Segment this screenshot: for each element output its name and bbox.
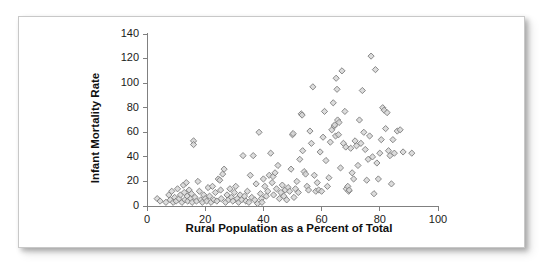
data-point-marker xyxy=(250,153,256,159)
data-point-marker xyxy=(383,126,389,132)
data-point-marker xyxy=(364,177,370,183)
figure-card: 020406080100120140020406080100 Rural Pop… xyxy=(18,16,525,248)
data-point-marker xyxy=(291,194,297,200)
page-background: 020406080100120140020406080100 Rural Pop… xyxy=(0,0,552,271)
y-tick-label: 40 xyxy=(127,150,139,162)
data-point-marker xyxy=(308,140,314,146)
data-point-marker xyxy=(409,150,415,156)
data-point-marker xyxy=(311,172,317,178)
data-point-marker xyxy=(317,149,323,155)
data-point-marker xyxy=(310,84,316,90)
y-tick-label: 20 xyxy=(127,174,139,186)
data-point-marker xyxy=(314,180,320,186)
x-tick-label: 0 xyxy=(144,213,150,225)
data-point-marker xyxy=(371,191,377,197)
data-point-marker xyxy=(377,150,383,156)
data-point-marker xyxy=(260,176,266,182)
data-point-marker xyxy=(326,175,332,181)
data-point-marker xyxy=(388,181,394,187)
data-point-marker xyxy=(356,117,362,123)
data-point-marker xyxy=(297,156,303,162)
data-point-marker xyxy=(269,180,275,186)
data-point-marker xyxy=(195,178,201,184)
y-tick-label: 140 xyxy=(121,27,139,39)
data-point-marker xyxy=(270,192,276,198)
y-tick-label: 0 xyxy=(133,199,139,211)
y-tick-label: 60 xyxy=(127,125,139,137)
data-point-marker xyxy=(330,100,336,106)
data-point-marker xyxy=(362,146,368,152)
scatter-chart: 020406080100120140020406080100 Rural Pop… xyxy=(19,17,526,249)
data-point-marker xyxy=(361,129,367,135)
y-tick-label: 100 xyxy=(121,76,139,88)
data-point-marker xyxy=(378,137,384,143)
data-point-marker xyxy=(374,160,380,166)
data-point-marker xyxy=(247,172,253,178)
data-markers-group xyxy=(154,53,415,207)
x-axis-title: Rural Population as a Percent of Total xyxy=(186,222,393,234)
data-point-marker xyxy=(355,162,361,168)
data-point-marker xyxy=(275,162,281,168)
data-point-marker xyxy=(351,176,357,182)
data-point-marker xyxy=(337,165,343,171)
data-point-marker xyxy=(300,148,306,154)
data-point-marker xyxy=(268,150,274,156)
axes-group xyxy=(147,33,438,206)
data-point-marker xyxy=(327,139,333,145)
data-point-marker xyxy=(359,87,365,93)
data-point-marker xyxy=(233,183,239,189)
data-point-marker xyxy=(323,157,329,163)
axis-spines xyxy=(147,33,438,206)
data-point-marker xyxy=(320,134,326,140)
data-point-marker xyxy=(390,137,396,143)
data-point-marker xyxy=(367,133,373,139)
y-tick-label: 120 xyxy=(121,51,139,63)
data-point-marker xyxy=(372,67,378,73)
data-point-marker xyxy=(324,183,330,189)
data-point-marker xyxy=(342,108,348,114)
data-point-marker xyxy=(339,68,345,74)
data-point-marker xyxy=(375,176,381,182)
data-point-marker xyxy=(174,186,180,192)
x-tick-label: 100 xyxy=(429,213,447,225)
data-point-marker xyxy=(294,178,300,184)
data-point-marker xyxy=(334,86,340,92)
data-point-marker xyxy=(333,75,339,81)
data-point-marker xyxy=(349,170,355,176)
y-tick-label: 80 xyxy=(127,101,139,113)
data-point-marker xyxy=(288,166,294,172)
data-point-marker xyxy=(400,149,406,155)
data-point-marker xyxy=(256,129,262,135)
data-point-marker xyxy=(240,153,246,159)
data-point-marker xyxy=(307,128,313,134)
data-point-marker xyxy=(368,53,374,59)
y-axis-title: Infant Mortality Rate xyxy=(89,73,101,184)
data-point-marker xyxy=(321,108,327,114)
data-point-marker xyxy=(253,181,259,187)
